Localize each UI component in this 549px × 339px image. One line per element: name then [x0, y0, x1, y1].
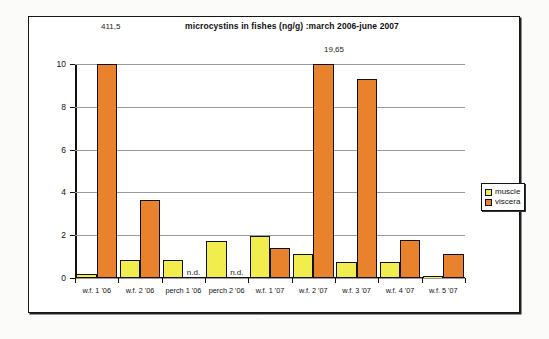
- bar-muscle: [76, 274, 96, 278]
- bar-group: [335, 64, 378, 278]
- x-axis-tick: [75, 278, 76, 283]
- no-data-label: n.d.: [183, 268, 203, 278]
- bar-group: n.d.: [162, 64, 205, 278]
- x-axis-label: perch 1 '06: [162, 286, 205, 295]
- x-axis-label: w.f. 3 '07: [335, 286, 378, 295]
- bar-viscera: [443, 254, 463, 278]
- x-axis-tick: [335, 278, 336, 283]
- x-axis-label: w.f. 4 '07: [378, 286, 421, 295]
- bar-group: [378, 64, 421, 278]
- x-axis-tick: [118, 278, 119, 283]
- x-axis-tick: [248, 278, 249, 283]
- legend-swatch-viscera-icon: [485, 199, 492, 206]
- bar-viscera: [97, 64, 117, 278]
- bar-viscera: [270, 248, 290, 278]
- bar-muscle: [423, 276, 443, 278]
- y-axis-tick-label: 10: [57, 59, 66, 69]
- overflow-annotation-1965: 19,65: [324, 45, 344, 54]
- y-axis-tick-label: 4: [61, 187, 66, 197]
- no-data-label: n.d.: [227, 268, 247, 278]
- x-axis-tick: [465, 278, 466, 283]
- bar-group: [292, 64, 335, 278]
- y-axis-tick-label: 6: [61, 145, 66, 155]
- legend-swatch-muscle-icon: [485, 189, 492, 196]
- x-axis-label: w.f. 1 '06: [75, 286, 118, 295]
- legend-item-muscle: muscle: [485, 187, 520, 197]
- y-axis-tick-label: 2: [61, 230, 66, 240]
- bar-viscera: [400, 240, 420, 278]
- x-axis-tick: [205, 278, 206, 283]
- bar-group: [248, 64, 291, 278]
- bar-group: [75, 64, 118, 278]
- bar-muscle: [163, 260, 183, 278]
- bar-group: [422, 64, 465, 278]
- y-axis-tick-label: 0: [61, 273, 66, 283]
- bar-muscle: [250, 236, 270, 278]
- overflow-annotation-411: 411,5: [101, 22, 120, 31]
- legend-label-viscera: viscera: [495, 197, 520, 207]
- chart-frame: microcystins in fishes (ng/g) :march 200…: [28, 16, 520, 313]
- bar-series-container: n.d.n.d.: [75, 64, 465, 278]
- bar-muscle: [120, 260, 140, 278]
- x-axis-labels: w.f. 1 '06w.f. 2 '06perch 1 '06perch 2 '…: [75, 286, 465, 295]
- y-axis-tick-label: 8: [61, 102, 66, 112]
- bar-muscle: [293, 254, 313, 278]
- x-axis-label: w.f. 2 '06: [118, 286, 161, 295]
- x-axis-label: w.f. 1 '07: [248, 286, 291, 295]
- x-axis-tick: [292, 278, 293, 283]
- x-axis-label: w.f. 2 '07: [292, 286, 335, 295]
- x-axis-label: perch 2 '06: [205, 286, 248, 295]
- bar-muscle: [380, 262, 400, 278]
- plot-area: 0246810 n.d.n.d.: [75, 64, 465, 278]
- x-axis-tick: [162, 278, 163, 283]
- bar-group: n.d.: [205, 64, 248, 278]
- bar-muscle: [336, 262, 356, 278]
- bar-viscera: [357, 79, 377, 278]
- bar-viscera: [313, 64, 333, 278]
- bar-viscera: [140, 200, 160, 278]
- x-axis-tick: [378, 278, 379, 283]
- legend-item-viscera: viscera: [485, 197, 520, 207]
- bar-group: [118, 64, 161, 278]
- x-axis-label: w.f. 5 '07: [422, 286, 465, 295]
- x-axis-tick: [422, 278, 423, 283]
- legend-label-muscle: muscle: [495, 187, 520, 197]
- bar-muscle: [206, 241, 226, 278]
- gridline: [75, 278, 465, 279]
- chart-legend: muscle viscera: [481, 183, 525, 211]
